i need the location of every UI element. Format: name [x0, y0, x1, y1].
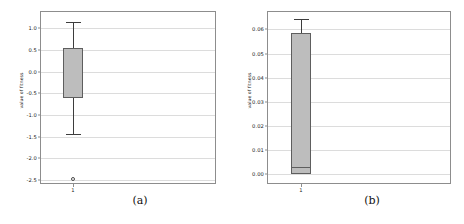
- whisker-cap-upper-a: [66, 22, 81, 23]
- y-tick-label-a-7: -2.0: [26, 155, 37, 161]
- y-tickmark-b-3: [265, 77, 268, 78]
- gridline-b-7: [268, 174, 450, 175]
- plot-area-a: 1.0 0.5 0.0 -0.5 -1.0 -1.5 -2.0 -2.5 1: [40, 11, 216, 184]
- y-axis-title-b: value of fitness: [247, 61, 252, 121]
- y-tick-label-b-5: 0.02: [252, 123, 264, 129]
- y-tickmark-b-5: [265, 125, 268, 126]
- gridline-a-8: [41, 180, 215, 181]
- gridline-b-1: [268, 29, 450, 30]
- panel-caption-b: (b): [256, 194, 464, 207]
- y-tick-label-a-2: 0.5: [28, 47, 37, 53]
- whisker-lower-a: [73, 98, 74, 134]
- y-tickmark-a-4: [38, 93, 41, 94]
- gridline-a-1: [41, 28, 215, 29]
- outlier-point-a: [71, 177, 75, 181]
- y-tick-label-b-1: 0.06: [252, 26, 264, 32]
- y-tickmark-a-2: [38, 50, 41, 51]
- boxplot-figure: value of fitness 1.0 0.5 0.0 -0.5 -: [0, 0, 464, 224]
- y-tickmark-b-1: [265, 29, 268, 30]
- x-tick-label-b-1: 1: [299, 187, 302, 193]
- y-tick-label-a-5: -1.0: [26, 112, 37, 118]
- y-tickmark-a-5: [38, 114, 41, 115]
- y-axis-title-a: value of fitness: [19, 61, 24, 121]
- box-a-1: [63, 48, 83, 98]
- y-tick-label-b-7: 0.00: [252, 171, 264, 177]
- panel-b: value of fitness 0.06 0.05 0.04 0.03 0.0…: [232, 0, 464, 224]
- y-tickmark-b-2: [265, 53, 268, 54]
- y-tick-label-a-4: -0.5: [26, 90, 37, 96]
- box-b-1: [291, 33, 311, 174]
- y-tickmark-b-7: [265, 174, 268, 175]
- gridline-a-6: [41, 137, 215, 138]
- whisker-upper-b: [301, 19, 302, 33]
- y-tick-label-b-6: 0.01: [252, 147, 264, 153]
- y-tickmark-a-1: [38, 28, 41, 29]
- plot-area-b: 0.06 0.05 0.04 0.03 0.02 0.01 0.00 1: [267, 11, 451, 184]
- whisker-cap-upper-b: [294, 19, 309, 20]
- whisker-cap-lower-a: [66, 134, 81, 135]
- y-tickmark-a-3: [38, 71, 41, 72]
- y-tick-label-a-8: -2.5: [26, 177, 37, 183]
- y-tick-label-a-3: 0.0: [28, 69, 37, 75]
- y-tickmark-b-4: [265, 101, 268, 102]
- y-tick-label-a-1: 1.0: [28, 25, 37, 31]
- median-line-b: [291, 167, 311, 168]
- y-tickmark-b-6: [265, 150, 268, 151]
- y-tick-label-a-6: -1.5: [26, 134, 37, 140]
- y-tick-label-b-3: 0.04: [252, 75, 264, 81]
- y-tickmark-a-6: [38, 136, 41, 137]
- x-tick-label-a-1: 1: [71, 187, 74, 193]
- y-tick-label-b-2: 0.05: [252, 51, 264, 57]
- gridline-a-7: [41, 158, 215, 159]
- y-tickmark-a-8: [38, 179, 41, 180]
- panel-a: value of fitness 1.0 0.5 0.0 -0.5 -: [0, 0, 232, 224]
- y-tickmark-a-7: [38, 158, 41, 159]
- y-tick-label-b-4: 0.03: [252, 99, 264, 105]
- panel-caption-a: (a): [24, 194, 256, 207]
- gridline-a-5: [41, 115, 215, 116]
